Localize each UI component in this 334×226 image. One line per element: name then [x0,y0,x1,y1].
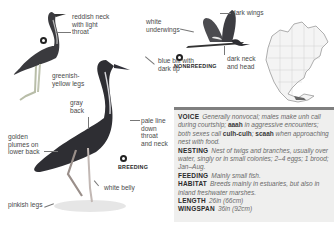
fact-key: WINGSPAN [178,205,215,212]
fact-key: HABITAT [178,180,207,187]
leader-line [224,46,225,55]
breeding-tag: BREEDING [118,164,148,170]
fact-key: VOICE [178,113,199,120]
fact-text: 26in (66cm) [209,197,243,204]
fact-key: NESTING [178,147,208,154]
label-reddish-neck: reddish neck with light throat [72,13,109,36]
label-dark-neck-head: dark neck and head [227,55,256,70]
juvenile-symbol-icon [40,37,47,44]
nonbreeding-symbol-icon [176,54,183,61]
label-pinkish-legs: pinkish legs [8,201,42,209]
species-facts-panel: VOICEGenerally nonvocal; males make unh … [174,107,334,222]
breeding-symbol-icon [120,155,127,162]
leader-line [44,151,58,152]
fact-wingspan: WINGSPAN36in (92cm) [174,205,334,213]
leader-line [130,120,140,121]
fact-text: scaah [255,130,273,137]
label-golden-plumes: golden plumes on lower back [8,133,40,156]
label-gray-back: gray back [70,99,84,114]
fact-key: LENGTH [178,197,206,204]
leader-line [88,117,89,129]
fact-key: FEEDING [178,172,208,179]
label-pale-line-throat: pale line down throat and neck [141,117,168,147]
fact-text: Mainly small fish. [211,172,260,179]
fact-voice: VOICEGenerally nonvocal; males make unh … [174,113,334,147]
leader-line [220,13,231,14]
fact-text: 36in (92cm) [218,205,252,212]
fact-feeding: FEEDINGMainly small fish. [174,172,334,180]
nonbreeding-tag: NONBREEDING [174,63,217,69]
fact-nesting: NESTINGNest of twigs and branches, usual… [174,147,334,172]
leader-line [56,32,71,33]
fact-habitat: HABITATBreeds mainly in estuaries, but a… [174,180,334,197]
range-map [258,16,334,106]
fact-length: LENGTH26in (66cm) [174,197,334,205]
fact-text: aaah [228,121,243,128]
fact-text: culh-culh [223,130,252,137]
label-white-underwings: white underwings [146,18,180,33]
label-white-belly: white belly [104,184,135,192]
